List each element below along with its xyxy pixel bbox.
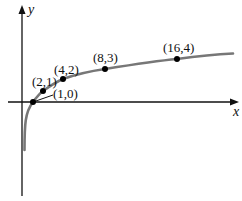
x-axis-label: x [232,104,240,119]
label-4-2: (4,2) [54,62,79,77]
label-16-4: (16,4) [163,40,194,55]
point-16-4 [174,56,180,62]
point-1-0 [30,99,36,105]
label-8-3: (8,3) [93,50,118,65]
log-graph: y x (1,0) (2,1) (4,2) (8,3) (16,4) [0,0,242,201]
y-axis-label: y [26,2,35,17]
point-8-3 [102,66,108,72]
y-axis-arrow-icon [19,5,26,14]
